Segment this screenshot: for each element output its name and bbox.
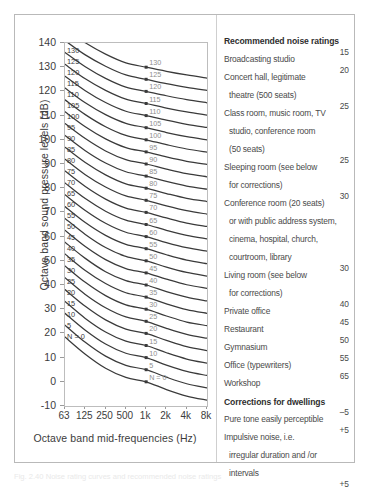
correction-row: irregular duration and /or [224, 444, 349, 462]
curve-value-label: 120 [149, 83, 161, 90]
curve-knee-marker [145, 138, 148, 141]
curve-knee-marker [145, 126, 148, 129]
y-tick-label: 80 [14, 183, 56, 191]
y-tick-label: 100 [14, 135, 56, 143]
curve-left-label: 55 [67, 212, 89, 219]
rating-row: or with public address system, [224, 210, 349, 228]
nr-curve [65, 290, 207, 351]
row-value: 65 [325, 372, 349, 381]
curve-left-label: 50 [67, 223, 89, 230]
curve-knee-marker [145, 163, 148, 166]
corrections-title: Corrections for dwellings [224, 397, 349, 407]
curve-left-label: 100 [67, 113, 89, 120]
rating-row: studio, conference room [224, 120, 349, 138]
curve-value-label: 110 [149, 108, 160, 115]
chart-area: Octave band sound pressure levels (dB) 1… [14, 14, 216, 463]
curve-left-label: 75 [67, 168, 89, 175]
row-label: Sleeping room (see below [224, 163, 317, 172]
curve-value-label: 10 [149, 350, 157, 357]
rating-row: Living room (see below30 [224, 264, 349, 282]
curve-value-label: 5 [149, 362, 153, 369]
row-value: 40 [325, 300, 349, 309]
curve-value-label: 15 [149, 338, 157, 345]
curve-left-label: 30 [67, 267, 89, 274]
curve-value-label: 65 [149, 217, 157, 224]
curve-value-label: 95 [149, 144, 157, 151]
row-value: 15 [325, 48, 349, 57]
curve-knee-marker [145, 356, 148, 359]
curve-value-label: 40 [149, 277, 157, 284]
curve-left-label: 105 [67, 102, 89, 109]
y-tick-label: 60 [14, 232, 56, 240]
curve-knee-marker [145, 235, 148, 238]
curve-left-label: 90 [67, 135, 89, 142]
x-tick-label: 8k [192, 411, 220, 421]
curve-value-label: 125 [149, 71, 161, 78]
curve-value-label: 75 [149, 192, 157, 199]
curve-value-label: 20 [149, 325, 157, 332]
curve-knee-marker [145, 247, 148, 250]
row-label: or with public address system, [224, 217, 337, 226]
rating-row: Workshop65 [224, 372, 349, 390]
curve-left-label: 110 [67, 91, 89, 98]
rating-row: Private office40 [224, 300, 349, 318]
curve-knee-marker [145, 223, 148, 226]
curve-left-label: 40 [67, 245, 89, 252]
curve-knee-marker [145, 344, 148, 347]
y-tick-label: 30 [14, 304, 56, 312]
curve-knee-marker [145, 199, 148, 202]
curve-value-label: 70 [149, 204, 157, 211]
nr-curve [65, 278, 207, 339]
curve-knee-marker [145, 380, 148, 383]
curve-value-label: 60 [149, 229, 157, 236]
y-tick-label: 140 [14, 38, 56, 46]
curve-knee-marker [145, 150, 148, 153]
curve-knee-marker [145, 271, 148, 274]
y-tick-label: 0 [14, 377, 56, 385]
curve-left-label: 65 [67, 190, 89, 197]
correction-row: Pure tone easily perceptible–5 [224, 408, 349, 426]
row-label: Class room, music room, TV [224, 109, 326, 118]
curve-left-label: 45 [67, 234, 89, 241]
row-label: Living room (see below [224, 271, 307, 280]
curve-left-label: 130 [67, 47, 89, 54]
rating-row: courtroom, library [224, 246, 349, 264]
curve-knee-marker [145, 187, 148, 190]
curve-left-label: 115 [67, 80, 89, 87]
row-label: studio, conference room [224, 127, 315, 136]
curve-knee-marker [145, 66, 148, 69]
curve-knee-marker [145, 259, 148, 262]
row-label: Broadcasting studio [224, 55, 295, 64]
row-value: 55 [325, 354, 349, 363]
section-gap [224, 390, 349, 397]
curve-knee-marker [145, 90, 148, 93]
curve-left-label: 5 [67, 322, 89, 329]
curve-left-label: 60 [67, 201, 89, 208]
curve-value-label: 55 [149, 241, 157, 248]
noise-rating-figure: Octave band sound pressure levels (dB) 1… [0, 0, 371, 487]
row-label: Restaurant [224, 325, 263, 334]
curve-left-label: N = 0 [67, 333, 97, 340]
row-value: –5 [325, 408, 349, 417]
row-label: irregular duration and /or [224, 451, 317, 460]
row-value: 30 [325, 264, 349, 273]
row-value: 30 [325, 192, 349, 201]
curve-value-label: 25 [149, 313, 157, 320]
curve-left-label: 95 [67, 124, 89, 131]
rating-row: for corrections) [224, 174, 349, 192]
row-label: (50 seats) [224, 145, 265, 154]
row-label: Concert hall, legitimate [224, 73, 306, 82]
curve-left-label: 35 [67, 256, 89, 263]
curve-knee-marker [145, 211, 148, 214]
curve-value-label: 30 [149, 301, 157, 308]
curve-knee-marker [145, 114, 148, 117]
y-tick-label: 120 [14, 86, 56, 94]
y-tick-label: 10 [14, 353, 56, 361]
x-axis-label: Octave band mid-frequencies (Hz) [14, 432, 216, 444]
row-value: 25 [325, 156, 349, 165]
curve-value-label: 105 [149, 120, 161, 127]
curve-left-label: 85 [67, 146, 89, 153]
curve-value-label: 100 [149, 132, 161, 139]
curve-left-label: 125 [67, 58, 89, 65]
row-label: Gymnasium [224, 343, 267, 352]
